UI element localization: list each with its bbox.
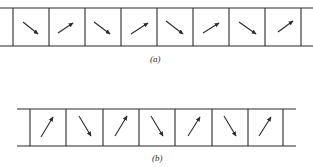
arrow-icon-down-right: [23, 22, 38, 34]
diagram-canvas: [0, 0, 313, 167]
arrow-icon-down-steep: [151, 116, 163, 136]
arrow-icon-down-steep: [224, 116, 236, 136]
arrow-icon-up-steep: [41, 117, 53, 137]
arrow-icon-up-right: [58, 23, 73, 33]
arrow-icon-up-right: [203, 23, 219, 33]
arrow-icon-up-right: [131, 23, 148, 34]
panel-b-label: (b): [152, 153, 163, 163]
arrow-icon-up-steep: [188, 117, 200, 136]
arrow-icon-up-steep: [115, 116, 127, 136]
arrow-icon-up-steep: [259, 117, 271, 136]
panel-a: [0, 8, 313, 46]
panel-a-label: (a): [150, 54, 161, 64]
arrow-icon-down-right: [239, 22, 256, 34]
arrow-icon-down-right: [94, 22, 110, 34]
arrow-icon-down-right: [166, 21, 183, 34]
panel-b: [17, 109, 296, 146]
arrow-icon-down-steep: [79, 116, 91, 136]
arrow-icon-up-right: [278, 21, 293, 32]
